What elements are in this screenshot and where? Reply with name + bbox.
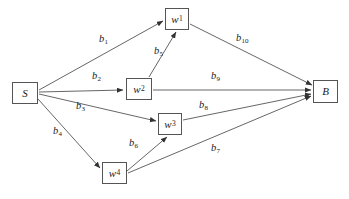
edge-label-b4: b4	[53, 126, 62, 138]
edge-label-b1: b1	[99, 34, 108, 46]
edge-b2	[39, 90, 123, 92]
edge-lines-group	[38, 21, 312, 173]
edge-b7	[128, 96, 311, 173]
edge-label-b2: b2	[92, 71, 101, 83]
diagram-canvas: Sw1w2w3w4B b1b2b3b4b5b6b7b8b9b10	[0, 0, 349, 199]
node-label: w	[171, 14, 178, 25]
edge-label-subscript: 5	[159, 50, 163, 58]
edge-label-b5: b5	[154, 46, 163, 58]
edge-label-b3: b3	[76, 101, 85, 113]
node-label-subscript: 1	[179, 15, 183, 23]
node-label: S	[22, 88, 28, 99]
edge-label-subscript: 8	[204, 104, 208, 112]
node-w2[interactable]: w2	[126, 78, 152, 100]
edge-label-subscript: 6	[134, 142, 138, 150]
edge-b4	[38, 99, 100, 168]
node-B[interactable]: B	[313, 80, 338, 103]
edge-label-b10: b10	[236, 33, 249, 45]
node-label: w	[109, 168, 116, 179]
edge-label-subscript: 9	[216, 75, 220, 83]
edge-label-subscript: 2	[97, 75, 101, 83]
edge-b10	[190, 24, 312, 85]
edge-label-subscript: 1	[104, 38, 108, 46]
node-label: B	[322, 86, 329, 97]
edge-label-subscript: 4	[58, 130, 62, 138]
node-label: w	[164, 119, 171, 130]
node-label-subscript: 4	[116, 169, 120, 177]
node-label-subscript: 3	[172, 120, 176, 128]
node-w4[interactable]: w4	[102, 162, 127, 184]
node-label: w	[133, 84, 140, 95]
edge-label-b8: b8	[199, 100, 208, 112]
edge-label-subscript: 10	[241, 37, 248, 45]
edge-label-b6: b6	[129, 138, 138, 150]
edge-label-b9: b9	[211, 71, 220, 83]
node-w3[interactable]: w3	[158, 113, 182, 135]
node-S[interactable]: S	[12, 82, 38, 104]
node-w1[interactable]: w1	[165, 8, 189, 30]
edge-label-subscript: 3	[81, 105, 85, 113]
edge-label-b7: b7	[211, 143, 220, 155]
node-label-subscript: 2	[141, 85, 145, 93]
edge-label-subscript: 7	[216, 147, 220, 155]
